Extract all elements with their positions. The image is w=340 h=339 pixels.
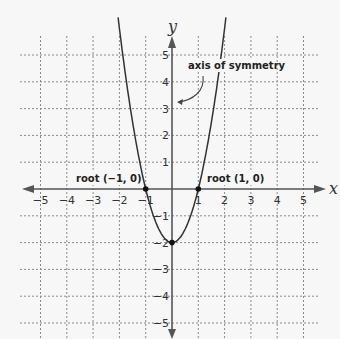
arrowhead-icon (177, 99, 183, 105)
grid-lines (20, 36, 320, 339)
y-axis-down-arrow-icon (168, 329, 176, 339)
data-point (196, 186, 202, 192)
root-right-label: root (1, 0) (207, 173, 264, 184)
parabola-chart: x y −5−4−3−2−11234554321−1−2−3−4−5 axis … (0, 0, 340, 339)
x-axis-label: x (329, 179, 338, 198)
y-tick-label: 2 (162, 129, 169, 142)
y-tick-label: 1 (162, 156, 169, 169)
root-left-label: root (−1, 0) (76, 173, 142, 184)
x-tick-label: 2 (221, 194, 228, 207)
data-point (143, 186, 149, 192)
x-tick-label: 5 (300, 194, 307, 207)
y-tick-label: 5 (162, 49, 169, 62)
x-tick-label: −1 (138, 194, 154, 207)
x-tick-label: 4 (274, 194, 281, 207)
y-tick-label: −2 (153, 237, 169, 250)
x-tick-label: 3 (247, 194, 254, 207)
y-tick-label: −5 (153, 317, 169, 330)
x-axis-right-arrow-icon (314, 185, 326, 193)
x-tick-label: −2 (111, 194, 127, 207)
y-tick-label: 3 (162, 103, 169, 116)
axis-of-symmetry-label: axis of symmetry (188, 60, 286, 71)
y-tick-label: 4 (162, 76, 169, 89)
x-tick-label: −4 (59, 194, 75, 207)
axis-of-symmetry-arrow-icon (179, 76, 203, 102)
y-tick-label: −4 (153, 290, 169, 303)
annotations: axis of symmetry root (−1, 0) root (1, 0… (74, 59, 286, 185)
y-axis-up-arrow-icon (168, 36, 176, 48)
y-axis-label: y (167, 17, 178, 36)
x-tick-label: −5 (32, 194, 48, 207)
x-axis-left-arrow-icon (22, 185, 34, 193)
x-tick-label: −3 (85, 194, 101, 207)
data-point (169, 240, 175, 246)
y-tick-label: −3 (153, 263, 169, 276)
axes: x y (22, 17, 338, 339)
